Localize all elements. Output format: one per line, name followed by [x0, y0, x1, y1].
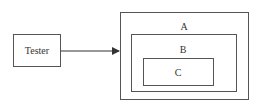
tester-node: Tester: [14, 35, 61, 67]
box-a: A: [121, 13, 249, 100]
box-a-label: A: [180, 21, 188, 32]
box-b-label: B: [180, 44, 187, 55]
box-c: C: [144, 59, 214, 86]
tester-label: Tester: [25, 45, 50, 56]
box-c-label: C: [175, 67, 182, 78]
diagram-canvas: Tester A B C: [0, 0, 256, 108]
box-b: B: [132, 35, 237, 92]
